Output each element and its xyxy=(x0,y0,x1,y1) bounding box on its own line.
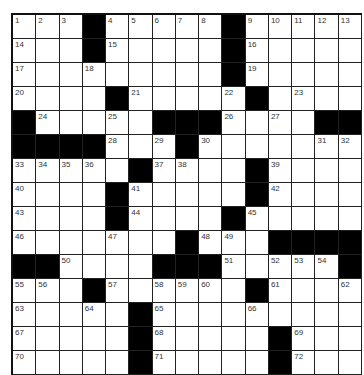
grid-cell[interactable] xyxy=(60,231,83,255)
grid-cell[interactable] xyxy=(83,327,106,351)
grid-cell[interactable]: 2 xyxy=(36,15,59,39)
grid-cell[interactable]: 36 xyxy=(83,159,106,183)
grid-cell[interactable]: 15 xyxy=(106,39,129,63)
grid-cell[interactable] xyxy=(60,183,83,207)
grid-cell[interactable]: 21 xyxy=(129,87,152,111)
grid-cell[interactable] xyxy=(153,231,176,255)
grid-cell[interactable] xyxy=(315,39,338,63)
grid-cell[interactable]: 8 xyxy=(199,15,222,39)
grid-cell[interactable] xyxy=(339,183,362,207)
grid-cell[interactable] xyxy=(292,207,315,231)
grid-cell[interactable]: 67 xyxy=(13,327,36,351)
grid-cell[interactable] xyxy=(129,231,152,255)
grid-cell[interactable]: 42 xyxy=(269,183,292,207)
grid-cell[interactable] xyxy=(246,111,269,135)
grid-cell[interactable]: 3 xyxy=(60,15,83,39)
grid-cell[interactable] xyxy=(292,303,315,327)
grid-cell[interactable] xyxy=(269,207,292,231)
grid-cell[interactable]: 69 xyxy=(292,327,315,351)
grid-cell[interactable] xyxy=(339,303,362,327)
grid-cell[interactable] xyxy=(315,63,338,87)
grid-cell[interactable]: 51 xyxy=(222,255,245,279)
grid-cell[interactable] xyxy=(199,39,222,63)
grid-cell[interactable] xyxy=(269,135,292,159)
grid-cell[interactable] xyxy=(36,303,59,327)
grid-cell[interactable] xyxy=(292,63,315,87)
grid-cell[interactable]: 14 xyxy=(13,39,36,63)
grid-cell[interactable] xyxy=(292,279,315,303)
grid-cell[interactable]: 32 xyxy=(339,135,362,159)
grid-cell[interactable] xyxy=(153,63,176,87)
grid-cell[interactable]: 35 xyxy=(60,159,83,183)
grid-cell[interactable]: 19 xyxy=(246,63,269,87)
grid-cell[interactable] xyxy=(60,111,83,135)
grid-cell[interactable] xyxy=(106,63,129,87)
grid-cell[interactable]: 53 xyxy=(292,255,315,279)
grid-cell[interactable]: 56 xyxy=(36,279,59,303)
grid-cell[interactable] xyxy=(339,207,362,231)
grid-cell[interactable] xyxy=(339,159,362,183)
grid-cell[interactable] xyxy=(176,87,199,111)
grid-cell[interactable]: 16 xyxy=(246,39,269,63)
grid-cell[interactable]: 46 xyxy=(13,231,36,255)
grid-cell[interactable]: 60 xyxy=(199,279,222,303)
grid-cell[interactable] xyxy=(199,207,222,231)
grid-cell[interactable] xyxy=(60,207,83,231)
grid-cell[interactable] xyxy=(176,351,199,375)
grid-cell[interactable]: 17 xyxy=(13,63,36,87)
grid-cell[interactable] xyxy=(36,183,59,207)
grid-cell[interactable] xyxy=(339,87,362,111)
grid-cell[interactable] xyxy=(36,327,59,351)
grid-cell[interactable]: 9 xyxy=(246,15,269,39)
grid-cell[interactable] xyxy=(246,327,269,351)
grid-cell[interactable]: 38 xyxy=(176,159,199,183)
grid-cell[interactable] xyxy=(292,159,315,183)
grid-cell[interactable] xyxy=(36,231,59,255)
grid-cell[interactable] xyxy=(222,279,245,303)
grid-cell[interactable] xyxy=(36,87,59,111)
grid-cell[interactable] xyxy=(199,183,222,207)
grid-cell[interactable] xyxy=(36,207,59,231)
grid-cell[interactable] xyxy=(129,279,152,303)
grid-cell[interactable] xyxy=(106,255,129,279)
grid-cell[interactable]: 24 xyxy=(36,111,59,135)
grid-cell[interactable]: 61 xyxy=(269,279,292,303)
grid-cell[interactable] xyxy=(269,39,292,63)
grid-cell[interactable] xyxy=(315,159,338,183)
grid-cell[interactable]: 71 xyxy=(153,351,176,375)
grid-cell[interactable] xyxy=(129,135,152,159)
grid-cell[interactable]: 54 xyxy=(315,255,338,279)
grid-cell[interactable] xyxy=(176,303,199,327)
grid-cell[interactable] xyxy=(153,183,176,207)
grid-cell[interactable] xyxy=(106,351,129,375)
grid-cell[interactable] xyxy=(315,279,338,303)
grid-cell[interactable] xyxy=(176,327,199,351)
grid-cell[interactable]: 34 xyxy=(36,159,59,183)
grid-cell[interactable] xyxy=(199,303,222,327)
grid-cell[interactable]: 47 xyxy=(106,231,129,255)
grid-cell[interactable]: 63 xyxy=(13,303,36,327)
grid-cell[interactable] xyxy=(269,63,292,87)
grid-cell[interactable]: 64 xyxy=(83,303,106,327)
grid-cell[interactable] xyxy=(60,87,83,111)
grid-cell[interactable] xyxy=(60,39,83,63)
grid-cell[interactable]: 10 xyxy=(269,15,292,39)
grid-cell[interactable] xyxy=(106,327,129,351)
grid-cell[interactable] xyxy=(339,63,362,87)
grid-cell[interactable]: 66 xyxy=(246,303,269,327)
grid-cell[interactable] xyxy=(339,39,362,63)
grid-cell[interactable]: 7 xyxy=(176,15,199,39)
grid-cell[interactable]: 12 xyxy=(315,15,338,39)
grid-cell[interactable] xyxy=(60,327,83,351)
grid-cell[interactable]: 72 xyxy=(292,351,315,375)
grid-cell[interactable]: 68 xyxy=(153,327,176,351)
grid-cell[interactable]: 29 xyxy=(153,135,176,159)
grid-cell[interactable] xyxy=(199,63,222,87)
grid-cell[interactable] xyxy=(129,111,152,135)
grid-cell[interactable] xyxy=(222,135,245,159)
grid-cell[interactable]: 49 xyxy=(222,231,245,255)
grid-cell[interactable] xyxy=(269,303,292,327)
grid-cell[interactable]: 45 xyxy=(246,207,269,231)
grid-cell[interactable]: 6 xyxy=(153,15,176,39)
grid-cell[interactable]: 48 xyxy=(199,231,222,255)
